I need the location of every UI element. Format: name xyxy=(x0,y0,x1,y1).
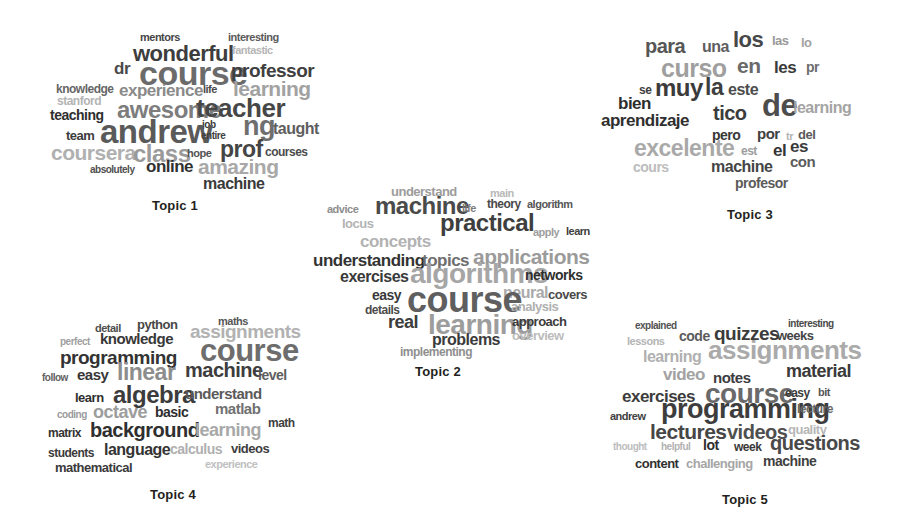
cloud-word: content xyxy=(635,459,678,470)
cloud-word: helpful xyxy=(661,443,690,451)
cloud-word: explained xyxy=(635,322,677,330)
cloud-word: code xyxy=(679,331,710,343)
cloud-word: lessons xyxy=(627,337,664,346)
word-cloud-figure: mentorsinterestingwonderfulfantasticdrco… xyxy=(0,0,901,532)
cloud-word: machine xyxy=(763,456,816,468)
cloud-word: thought xyxy=(613,443,647,451)
cloud-word: assignments xyxy=(708,340,861,362)
cloud-word: lot xyxy=(703,440,719,452)
cloud-word: week xyxy=(734,442,761,452)
cloud-word: video xyxy=(663,368,705,382)
cloud-word: learning xyxy=(643,350,701,363)
topic-label-topic-5: Topic 5 xyxy=(722,492,768,507)
word-cloud-topic-5: explainedinterestinglessonscodequizzeswe… xyxy=(0,0,901,532)
cloud-word: material xyxy=(786,364,851,379)
cloud-word: questions xyxy=(770,435,860,452)
cloud-word: andrew xyxy=(610,412,646,421)
cloud-word: lecture xyxy=(797,404,833,414)
cloud-word: challenging xyxy=(686,459,753,470)
